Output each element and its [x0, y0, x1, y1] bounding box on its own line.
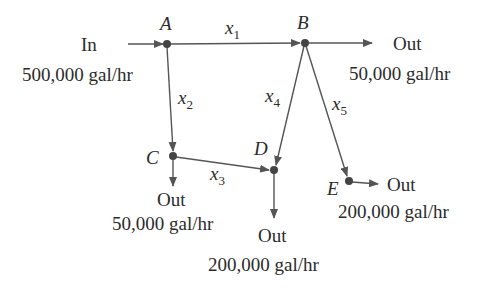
outflow-c-rate: 50,000 gal/hr [112, 214, 213, 233]
node-b [301, 39, 309, 47]
edge-e-out [352, 182, 378, 184]
node-c [169, 152, 177, 160]
node-label-d: D [254, 139, 268, 158]
edge-label-x2: x2 [178, 88, 193, 107]
node-label-c: C [146, 148, 159, 167]
edge-a-b [170, 43, 300, 44]
outflow-e-rate: 200,000 gal/hr [338, 202, 449, 221]
node-a [163, 40, 171, 48]
edge-label-x1: x1 [225, 18, 240, 37]
node-label-e: E [327, 179, 339, 198]
edge-b-d [276, 46, 304, 165]
edge-label-x4: x4 [265, 86, 280, 105]
edge-label-x5: x5 [332, 94, 347, 113]
outflow-e-label: Out [387, 175, 416, 194]
outflow-b-label: Out [393, 34, 422, 53]
edge-label-x3: x3 [210, 164, 225, 183]
outflow-d-rate: 200,000 gal/hr [208, 255, 319, 274]
node-d [270, 166, 278, 174]
outflow-b-rate: 50,000 gal/hr [349, 64, 450, 83]
inflow-label: In [81, 35, 97, 54]
node-label-b: B [297, 13, 309, 32]
inflow-rate: 500,000 gal/hr [22, 65, 133, 84]
node-label-a: A [160, 14, 172, 33]
outflow-c-label: Out [157, 190, 186, 209]
node-e [345, 177, 353, 185]
outflow-d-label: Out [258, 226, 287, 245]
edge-a-c [167, 47, 173, 151]
